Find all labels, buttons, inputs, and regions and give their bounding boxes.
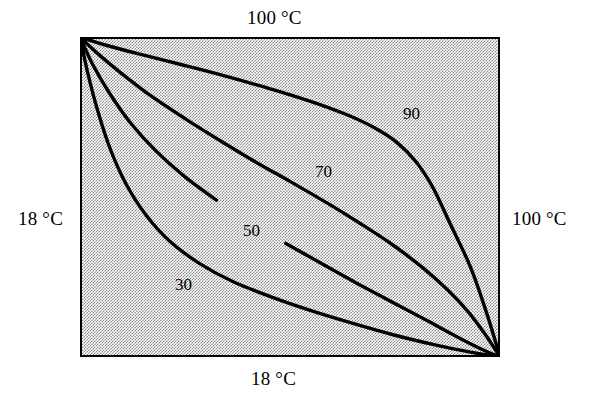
isotherm-figure: 100 °C 18 °C 18 °C 100 °C 90 70 50 30 [0,0,603,413]
contour-label-30: 30 [175,276,192,293]
isotherm-contour-curves [80,37,500,357]
contour-label-90: 90 [403,105,420,122]
isotherm-curve-90 [80,37,500,357]
edge-label-left: 18 °C [18,209,63,228]
contour-label-70: 70 [315,163,332,180]
contour-label-50: 50 [243,222,260,239]
edge-label-right: 100 °C [512,209,567,228]
edge-label-bottom: 18 °C [251,369,296,388]
edge-label-top: 100 °C [247,8,302,27]
